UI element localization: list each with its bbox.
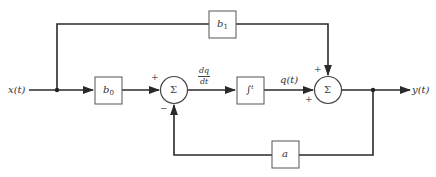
integrator-label: ∫t bbox=[246, 84, 254, 95]
summer-2-symbol: Σ bbox=[324, 85, 331, 95]
input-label: x(t) bbox=[8, 85, 25, 95]
a-to-sum1-wire bbox=[174, 105, 272, 155]
a-label: a bbox=[282, 149, 288, 159]
output-label: y(t) bbox=[412, 85, 429, 95]
q-label: q(t) bbox=[280, 75, 298, 85]
summer-1-plus-sign: + bbox=[151, 73, 159, 82]
summer-2-plus-top-sign: + bbox=[314, 65, 322, 74]
dq-dt-label: dq dt bbox=[198, 67, 210, 86]
summer-1-symbol: Σ bbox=[170, 85, 177, 95]
feedforward-wire-to-b1 bbox=[57, 24, 209, 90]
summer-1-minus-sign: − bbox=[160, 104, 168, 113]
summer-2-plus-left-sign: + bbox=[305, 95, 313, 104]
input-branch-point bbox=[55, 88, 59, 92]
b1-label: b1 bbox=[217, 19, 228, 31]
b0-label: b0 bbox=[103, 85, 114, 97]
